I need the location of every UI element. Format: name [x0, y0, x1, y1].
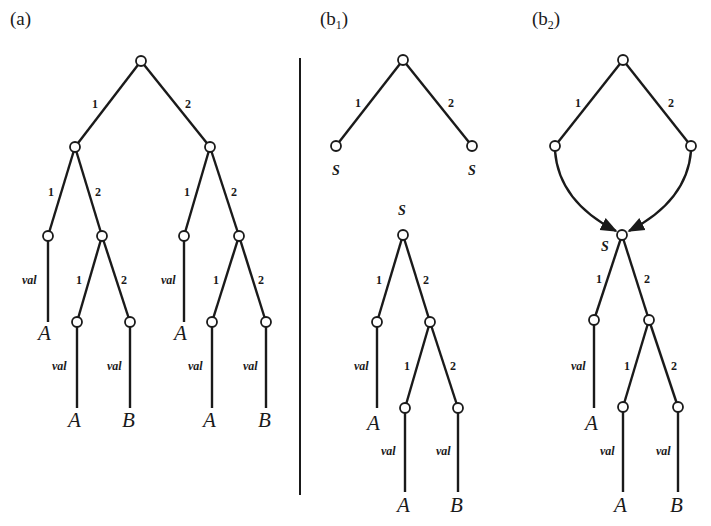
- s-label: S: [332, 163, 340, 178]
- node: [372, 317, 382, 327]
- node: [618, 402, 628, 412]
- node: [673, 402, 683, 412]
- node: [398, 55, 408, 65]
- leaf-label: A: [36, 321, 51, 345]
- tree-a: 1 2 1 2 1 2 1 2 1 2 val val val val val …: [22, 56, 271, 432]
- edge-label: 2: [95, 185, 101, 199]
- val-label: val: [656, 444, 671, 458]
- edge-label: 1: [48, 185, 54, 199]
- node: [261, 317, 271, 327]
- edge-label: 1: [213, 273, 219, 287]
- edge-label: 1: [76, 273, 82, 287]
- shared-node: [617, 230, 627, 240]
- node: [179, 231, 189, 241]
- tree-b1-shared: S 1 2 1 2 val val val A A B: [354, 203, 463, 517]
- leaf-label: B: [122, 408, 135, 432]
- leaf-label: A: [172, 321, 187, 345]
- edge-label: 1: [355, 96, 361, 110]
- node: [589, 315, 599, 325]
- merge-arrow: [629, 151, 691, 231]
- val-label: val: [354, 359, 369, 373]
- leaf-label: A: [66, 408, 81, 432]
- node: [467, 141, 477, 151]
- edge-label: 2: [450, 359, 456, 373]
- val-label: val: [381, 444, 396, 458]
- val-label: val: [188, 359, 203, 373]
- s-label: S: [398, 203, 406, 218]
- leaf-label: A: [612, 493, 627, 517]
- edge-label: 2: [448, 96, 454, 110]
- node: [70, 142, 80, 152]
- edge-label: 2: [258, 273, 264, 287]
- node: [72, 317, 82, 327]
- val-label: val: [600, 444, 615, 458]
- node: [43, 231, 53, 241]
- panel-label-a: (a): [10, 8, 31, 30]
- node: [136, 56, 146, 66]
- edge-label: 2: [423, 273, 429, 287]
- tree-b2: S 1 2 1 2 1 2 val val val A A B: [550, 55, 696, 517]
- edge-label: 2: [644, 272, 650, 286]
- leaf-label: A: [395, 493, 410, 517]
- node: [125, 317, 135, 327]
- s-label: S: [468, 163, 476, 178]
- edge-label: 2: [185, 97, 191, 111]
- node: [453, 403, 463, 413]
- edge-label: 2: [668, 96, 674, 110]
- leaf-label: B: [670, 493, 683, 517]
- edge-label: 2: [121, 273, 127, 287]
- leaf-label: B: [258, 408, 271, 432]
- edge-label: 2: [671, 359, 677, 373]
- leaf-label: A: [583, 411, 598, 435]
- node: [425, 317, 435, 327]
- node: [205, 142, 215, 152]
- tree-b1-top: 1 2 S S: [331, 55, 477, 178]
- leaf-label: A: [365, 411, 380, 435]
- val-label: val: [52, 359, 67, 373]
- merge-arrow: [555, 151, 616, 231]
- edge-label: 2: [231, 185, 237, 199]
- leaf-label: A: [201, 408, 216, 432]
- edge-label: 1: [184, 185, 190, 199]
- edge-label: 1: [92, 97, 98, 111]
- edge-label: 1: [596, 272, 602, 286]
- panel-label-b1: (b1): [320, 8, 348, 32]
- node: [331, 141, 341, 151]
- node: [550, 141, 560, 151]
- diagram-canvas: (a) (b1) (b2) 1 2 1: [0, 0, 711, 526]
- node: [686, 141, 696, 151]
- node: [207, 317, 217, 327]
- node: [400, 403, 410, 413]
- val-label: val: [161, 273, 176, 287]
- node: [97, 231, 107, 241]
- s-label: S: [601, 239, 609, 254]
- edge-label: 1: [404, 359, 410, 373]
- val-label: val: [571, 359, 586, 373]
- val-label: val: [243, 359, 258, 373]
- val-label: val: [436, 444, 451, 458]
- node: [234, 231, 244, 241]
- panel-label-b2: (b2): [532, 8, 560, 32]
- edge-label: 1: [376, 273, 382, 287]
- edge-label: 1: [624, 359, 630, 373]
- node: [618, 55, 628, 65]
- val-label: val: [107, 359, 122, 373]
- node: [644, 315, 654, 325]
- val-label: val: [22, 273, 37, 287]
- leaf-label: B: [450, 493, 463, 517]
- edge-label: 1: [575, 96, 581, 110]
- node: [398, 230, 408, 240]
